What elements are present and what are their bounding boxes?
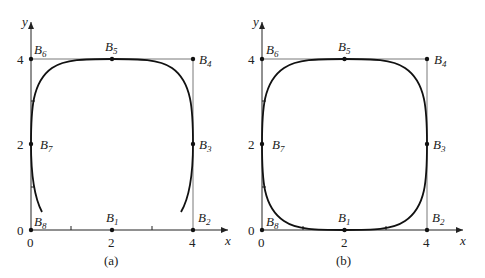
x-tick-2-b: 2	[341, 235, 348, 250]
y-tick-2-b: 2	[248, 137, 255, 152]
label-b4-b: B4	[434, 52, 447, 69]
x-tick-2-a: 2	[108, 235, 115, 250]
y-arrow-icon-b	[259, 22, 265, 29]
x-axis-label-b: x	[459, 233, 466, 248]
label-b8-a: B8	[34, 214, 47, 231]
label-b3-b: B3	[433, 137, 446, 154]
caption-a: (a)	[104, 253, 118, 268]
y-tick-4-b: 4	[248, 52, 255, 67]
bspline-curve-b	[262, 59, 427, 230]
label-b1-a: B1	[106, 210, 118, 227]
control-polygon-b	[262, 59, 427, 230]
control-points-a	[29, 57, 195, 232]
label-b6-a: B6	[34, 42, 47, 59]
caption-b: (b)	[336, 253, 351, 268]
label-b5-b: B5	[338, 39, 351, 56]
label-b7-a: B7	[40, 137, 53, 154]
x-tick-0-b: 0	[258, 235, 265, 250]
y-axis-label-a: y	[20, 14, 28, 29]
axes-b	[262, 22, 463, 230]
y-tick-0-a: 0	[17, 223, 24, 238]
y-tick-2-a: 2	[17, 137, 24, 152]
label-b2-a: B2	[198, 210, 211, 227]
x-axis-label-a: x	[224, 233, 231, 248]
x-tick-0-a: 0	[27, 235, 34, 250]
x-tick-4-a: 4	[189, 235, 196, 250]
control-polygon-a	[31, 59, 193, 230]
label-b1-b: B1	[338, 210, 350, 227]
label-b2-b: B2	[432, 210, 445, 227]
y-axis-label-b: y	[251, 14, 259, 29]
y-arrow-icon-a	[28, 22, 34, 29]
label-b6-b: B6	[266, 42, 279, 59]
panel-b: B1 B2 B3 B4 B5 B6 B7 B8 y x 0 2 4 0 2 4 …	[248, 14, 466, 268]
y-tick-4-a: 4	[17, 52, 24, 67]
control-points-b	[260, 57, 429, 232]
label-b3-a: B3	[199, 137, 212, 154]
label-b8-b: B8	[266, 214, 279, 231]
label-b7-b: B7	[272, 137, 285, 154]
label-b4-a: B4	[199, 52, 212, 69]
x-tick-4-b: 4	[423, 235, 430, 250]
bspline-curve-a	[31, 59, 193, 212]
panel-a: B1 B2 B3 B4 B5 B6 B7 B8 y x 0 2 4 0 2 4 …	[17, 14, 231, 268]
y-tick-0-b: 0	[248, 223, 255, 238]
figure: B1 B2 B3 B4 B5 B6 B7 B8 y x 0 2 4 0 2 4 …	[0, 0, 485, 278]
label-b5-a: B5	[105, 39, 118, 56]
